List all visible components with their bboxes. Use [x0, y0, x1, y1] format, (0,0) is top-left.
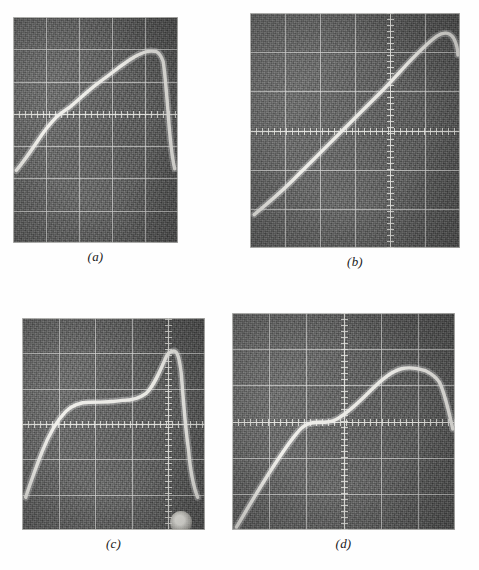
film-grain-texture-c: [22, 318, 205, 530]
oscilloscope-panel-a: [13, 17, 178, 243]
film-grain-texture-a: [13, 17, 178, 243]
film-grain-texture-b: [250, 13, 460, 248]
scope-screen-c: [22, 318, 205, 530]
panel-caption-c: (c): [22, 536, 205, 552]
panel-caption-d: (d): [232, 536, 455, 552]
film-grain-texture-d: [232, 313, 455, 530]
figure-plate: (a): [0, 0, 479, 570]
oscilloscope-panel-d: [232, 313, 455, 530]
scope-screen-b: [250, 13, 460, 248]
scope-screen-d: [232, 313, 455, 530]
panel-caption-a: (a): [13, 249, 178, 265]
trace-overshoot-blob-c: [170, 511, 192, 530]
oscilloscope-panel-c: [22, 318, 205, 530]
panel-caption-b: (b): [250, 254, 460, 270]
scope-screen-a: [13, 17, 178, 243]
oscilloscope-panel-b: [250, 13, 460, 248]
